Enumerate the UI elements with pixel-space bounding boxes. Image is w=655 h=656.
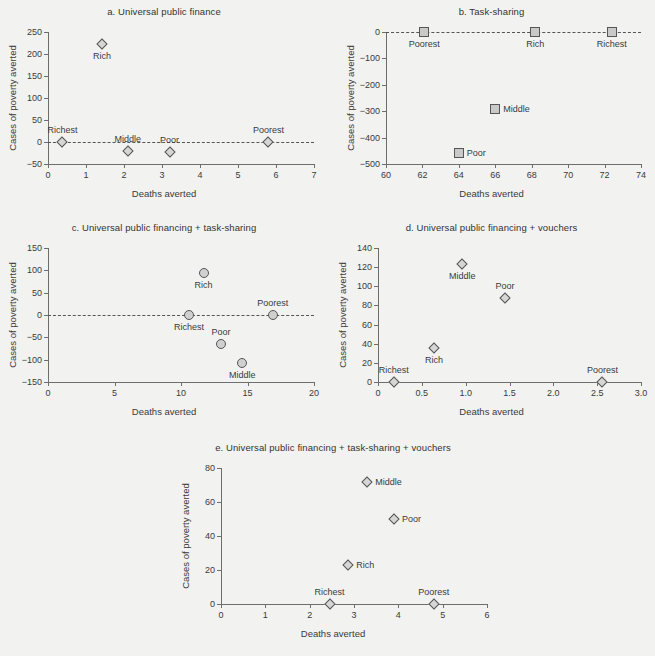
panel-b-plot-area: 60626466687072740−100−200−300−400−500Poo… bbox=[386, 32, 641, 164]
y-tick-label: 20 bbox=[205, 565, 215, 575]
x-tick-label: 4 bbox=[197, 170, 202, 180]
x-tick bbox=[124, 164, 125, 168]
data-point-richest bbox=[388, 376, 399, 387]
x-tick-label: 66 bbox=[490, 170, 500, 180]
y-tick bbox=[382, 164, 386, 165]
y-tick bbox=[44, 360, 48, 361]
x-tick-label: 5 bbox=[440, 610, 445, 620]
x-tick-label: 0 bbox=[218, 610, 223, 620]
data-point-label: Middle bbox=[449, 271, 476, 281]
x-tick bbox=[641, 164, 642, 168]
x-tick-label: 0.5 bbox=[416, 388, 429, 398]
y-tick-label: 80 bbox=[362, 300, 372, 310]
x-tick-label: 6 bbox=[273, 170, 278, 180]
x-tick-label: 0 bbox=[375, 388, 380, 398]
y-tick bbox=[217, 604, 221, 605]
data-point-label: Poorest bbox=[418, 587, 449, 597]
panel-d-y-axis-title: Cases of poverty averted bbox=[337, 248, 348, 382]
x-tick bbox=[495, 164, 496, 168]
data-point-label: Richest bbox=[379, 365, 409, 375]
y-tick bbox=[44, 270, 48, 271]
data-point-richest bbox=[57, 136, 68, 147]
data-point-label: Middle bbox=[229, 370, 256, 380]
x-tick-label: 2.0 bbox=[547, 388, 560, 398]
y-tick-label: 40 bbox=[362, 339, 372, 349]
x-tick bbox=[466, 382, 467, 386]
y-tick-label: −100 bbox=[22, 355, 42, 365]
y-tick-label: 0 bbox=[375, 27, 380, 37]
x-tick-label: 6 bbox=[484, 610, 489, 620]
x-tick-label: 68 bbox=[527, 170, 537, 180]
panel-d-title: d. Universal public financing + vouchers bbox=[328, 222, 655, 233]
panel-e-y-axis-title: Cases of poverty averted bbox=[180, 468, 191, 604]
x-tick-label: 3 bbox=[351, 610, 356, 620]
data-point-poor bbox=[388, 513, 399, 524]
data-point-label: Richest bbox=[315, 587, 345, 597]
panel-d-x-axis-title: Deaths averted bbox=[328, 406, 655, 417]
data-point-middle bbox=[237, 358, 247, 368]
data-point-rich bbox=[199, 268, 209, 278]
x-tick-label: 74 bbox=[636, 170, 646, 180]
panel-d-y-axis bbox=[378, 248, 379, 382]
y-tick bbox=[44, 293, 48, 294]
x-tick-label: 7 bbox=[311, 170, 316, 180]
data-point-poor bbox=[164, 146, 175, 157]
x-tick-label: 2.5 bbox=[591, 388, 604, 398]
x-tick-label: 2 bbox=[121, 170, 126, 180]
data-point-poorest bbox=[597, 376, 608, 387]
panel-b-x-axis bbox=[386, 164, 641, 165]
x-tick-label: 1.5 bbox=[503, 388, 516, 398]
x-tick bbox=[398, 604, 399, 608]
data-point-label: Rich bbox=[425, 355, 443, 365]
data-point-rich bbox=[96, 38, 107, 49]
data-point-label: Poor bbox=[496, 281, 515, 291]
x-tick bbox=[314, 382, 315, 386]
x-tick-label: 60 bbox=[381, 170, 391, 180]
x-tick bbox=[265, 604, 266, 608]
data-point-label: Poor bbox=[467, 148, 486, 158]
x-tick bbox=[422, 164, 423, 168]
y-tick bbox=[374, 267, 378, 268]
x-tick bbox=[510, 382, 511, 386]
data-point-richest bbox=[607, 27, 617, 37]
x-tick-label: 15 bbox=[242, 388, 252, 398]
x-tick-label: 3.0 bbox=[635, 388, 648, 398]
x-tick bbox=[386, 164, 387, 168]
panel-e-title: e. Universal public financing + task-sha… bbox=[163, 442, 503, 453]
y-tick-label: 250 bbox=[27, 27, 42, 37]
data-point-label: Middle bbox=[375, 477, 402, 487]
panel-a-x-axis bbox=[48, 164, 314, 165]
data-point-label: Poorest bbox=[257, 298, 288, 308]
panel-c-title: c. Universal public financing + task-sha… bbox=[0, 222, 328, 233]
x-tick bbox=[487, 604, 488, 608]
data-point-middle bbox=[362, 476, 373, 487]
panel-c-y-axis-title: Cases of poverty averted bbox=[7, 248, 18, 382]
data-point-label: Poor bbox=[402, 514, 421, 524]
y-tick-label: −150 bbox=[22, 377, 42, 387]
y-tick bbox=[374, 325, 378, 326]
y-tick-label: −200 bbox=[360, 80, 380, 90]
x-tick-label: 2 bbox=[307, 610, 312, 620]
x-tick bbox=[422, 382, 423, 386]
y-tick-label: 150 bbox=[27, 71, 42, 81]
y-tick bbox=[382, 111, 386, 112]
data-point-rich bbox=[428, 342, 439, 353]
zero-reference-line bbox=[48, 142, 314, 143]
data-point-label: Rich bbox=[93, 51, 111, 61]
x-tick bbox=[641, 382, 642, 386]
data-point-middle bbox=[456, 259, 467, 270]
y-tick bbox=[374, 363, 378, 364]
x-tick bbox=[532, 164, 533, 168]
x-tick-label: 3 bbox=[159, 170, 164, 180]
data-point-middle bbox=[490, 104, 500, 114]
x-tick-label: 1 bbox=[83, 170, 88, 180]
data-point-richest bbox=[184, 310, 194, 320]
y-tick-label: 20 bbox=[362, 358, 372, 368]
y-tick-label: 40 bbox=[205, 531, 215, 541]
y-tick-label: 100 bbox=[27, 265, 42, 275]
panel-a-x-axis-title: Deaths averted bbox=[0, 188, 328, 199]
data-point-poorest bbox=[419, 27, 429, 37]
x-tick-label: 64 bbox=[454, 170, 464, 180]
x-tick bbox=[553, 382, 554, 386]
y-tick bbox=[217, 468, 221, 469]
